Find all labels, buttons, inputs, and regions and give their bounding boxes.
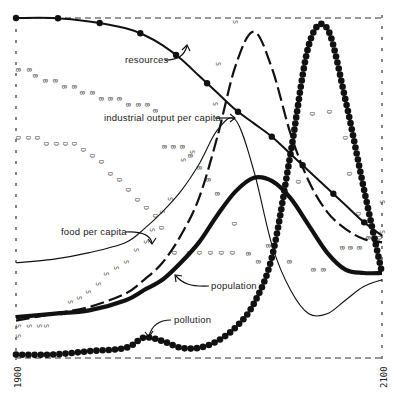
pollution-dot (277, 212, 284, 219)
pollution-dot (105, 347, 112, 354)
letter-marker: S (94, 282, 102, 286)
pollution-dot (298, 83, 305, 90)
letter-marker: D (325, 110, 333, 114)
letter-marker: B (169, 145, 177, 149)
letter-marker: D (124, 188, 132, 192)
letter-marker: S (231, 20, 239, 24)
letter-marker: D (106, 172, 114, 176)
pollution-dot (375, 253, 382, 260)
resources-dot (235, 109, 241, 115)
letter-marker: D (195, 251, 203, 255)
pollution-dot (169, 342, 176, 349)
pollution-dot (337, 71, 344, 78)
letter-marker: S (211, 102, 219, 106)
pollution-dot (181, 345, 188, 352)
pollution-dot (369, 223, 376, 230)
pollution-arrow-icon (149, 320, 171, 336)
resources-dot (137, 30, 143, 36)
letter-marker: B (14, 68, 22, 72)
x-tick-2100: 2100 (379, 366, 389, 388)
pollution-dot (350, 132, 357, 139)
pollution-dot (280, 194, 287, 201)
pollution-dot (363, 199, 370, 206)
letter-marker: B (31, 74, 39, 78)
pollution-dot (301, 65, 308, 72)
pollution-dot (361, 187, 368, 194)
letter-marker: B (254, 260, 262, 264)
letter-marker: B (285, 260, 293, 264)
pollution-dot (365, 205, 372, 212)
letter-marker: B (25, 68, 33, 72)
pollution-dot (267, 261, 274, 268)
pollution-dot (293, 114, 300, 121)
pollution-dot (31, 352, 38, 359)
pollution-dot (358, 175, 365, 182)
letter-marker: B (346, 246, 354, 250)
pollution-dot (289, 139, 296, 146)
pollution-dot (286, 157, 293, 164)
pollution-dot (335, 65, 342, 72)
world-model-chart: BBBBBBBBBBBBBBBBBBBBBBBBBBBBBBBBBBDDDDDD… (0, 0, 396, 402)
pollution-dot (338, 77, 345, 84)
annotation-resources: resources (125, 45, 190, 65)
letter-marker: B (60, 85, 68, 89)
pollution-dot (295, 102, 302, 109)
pollution-dot (44, 351, 51, 358)
letter-marker: B (70, 85, 78, 89)
letter-marker: D (70, 142, 78, 146)
annotation-population: population (175, 275, 257, 291)
letter-marker: S (179, 158, 187, 162)
letter-marker: S (378, 200, 386, 204)
letter-marker: B (309, 268, 317, 272)
pollution-dot (152, 335, 159, 342)
pollution-dot (259, 284, 266, 291)
letter-marker: D (42, 142, 50, 146)
pollution-dot (25, 351, 32, 358)
pollution-dot (374, 247, 381, 254)
letter-marker: S (14, 334, 22, 338)
pollution-dot (112, 346, 119, 353)
pollution-dot (263, 272, 270, 279)
letter-marker: D (24, 136, 32, 140)
pollution-dot (303, 53, 310, 60)
letter-marker: B (41, 79, 49, 83)
letter-marker: D (14, 136, 22, 140)
pollution-dot (284, 169, 291, 176)
pollution-dot (87, 348, 94, 355)
pollution-dot (271, 242, 278, 249)
pollution-dot (282, 181, 289, 188)
letter-marker: B (97, 97, 105, 101)
pollution-dot (99, 347, 106, 354)
letter-marker: D (206, 251, 214, 255)
pollution-dot (347, 120, 354, 127)
pollution-dot (355, 156, 362, 163)
pollution-dot (348, 126, 355, 133)
letter-marker: B (143, 103, 151, 107)
pollution-dot (306, 41, 313, 48)
pollution-dot (343, 102, 350, 109)
pollution-dot (256, 290, 263, 297)
letter-marker: D (345, 172, 353, 176)
pollution-dot (261, 278, 268, 285)
pollution-dot (158, 337, 165, 344)
letter-marker: D (217, 251, 225, 255)
pollution-dot (164, 339, 171, 346)
pollution-dot (37, 352, 44, 359)
letter-marker: S (188, 150, 196, 154)
letter-marker: B (244, 252, 252, 256)
pollution-dot (333, 53, 340, 60)
pollution-dot (362, 193, 369, 200)
pollution-dot (272, 236, 279, 243)
resources-dot (204, 80, 210, 86)
letter-marker: D (133, 198, 141, 202)
pollution-dot (50, 351, 57, 358)
pollution-dot (175, 344, 182, 351)
letter-marker: B (178, 145, 186, 149)
pollution-dot (341, 90, 348, 97)
letter-marker: S (66, 300, 74, 304)
letter-marker: D (142, 206, 150, 210)
letter-marker: B (160, 145, 168, 149)
letter-marker: D (115, 178, 123, 182)
pollution-dot (356, 162, 363, 169)
letter-markers: BBBBBBBBBBBBBBBBBBBBBBBBBBBBBBBBBBDDDDDD… (14, 20, 386, 338)
